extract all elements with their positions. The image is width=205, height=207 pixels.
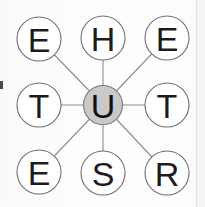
node-middle-left[interactable]: T — [17, 83, 61, 127]
node-top-right[interactable]: E — [145, 16, 189, 60]
node-center[interactable]: U — [84, 86, 123, 126]
node-label-top-left: E — [28, 21, 51, 59]
node-label-top-center: H — [91, 20, 116, 58]
node-label-bottom-center: S — [92, 155, 115, 193]
node-top-left[interactable]: E — [17, 17, 61, 61]
diagram-canvas: E H E T T E S R — [0, 0, 205, 207]
node-label-middle-right: T — [157, 87, 178, 125]
node-bottom-center[interactable]: S — [81, 151, 125, 195]
node-label-bottom-right: R — [155, 155, 180, 193]
node-label-middle-left: T — [29, 87, 50, 125]
node-label-top-right: E — [156, 20, 179, 58]
node-label-center: U — [91, 87, 116, 125]
node-bottom-left[interactable]: E — [17, 150, 61, 194]
node-middle-right[interactable]: T — [145, 83, 189, 127]
node-label-bottom-left: E — [28, 154, 51, 192]
node-bottom-right[interactable]: R — [145, 151, 189, 195]
radial-node-graph: E H E T T E S R — [0, 0, 205, 207]
node-top-center[interactable]: H — [81, 16, 125, 60]
